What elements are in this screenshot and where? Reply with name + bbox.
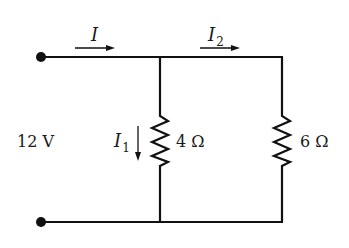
current-symbol: I <box>91 24 98 45</box>
terminal-top-dot <box>36 52 46 62</box>
terminal-bottom-dot <box>36 217 46 227</box>
resistor-label-6-ohm: 6 Ω <box>300 134 329 150</box>
current-subscript: 2 <box>216 35 224 49</box>
resistor-4-ohm <box>152 57 168 222</box>
current-label-i2: I2 <box>208 26 224 44</box>
resistor-6-ohm <box>274 57 290 222</box>
arrow-icon-current-i1 <box>135 126 141 161</box>
circuit-diagram <box>0 0 349 248</box>
current-subscript: 1 <box>122 141 130 155</box>
arrow-icon-current-i <box>75 45 115 51</box>
resistor-label-4-ohm: 4 Ω <box>176 134 205 150</box>
voltage-label: 12 V <box>17 134 54 150</box>
current-symbol: I <box>114 130 121 151</box>
current-label-i1: I1 <box>114 132 130 150</box>
current-label-i: I <box>91 26 98 44</box>
current-symbol: I <box>208 24 215 45</box>
